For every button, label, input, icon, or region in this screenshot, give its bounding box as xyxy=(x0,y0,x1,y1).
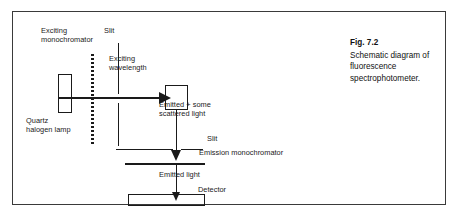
label-emitted-light: Emitted light xyxy=(159,170,200,179)
figure-root: Exciting monochromator Slit Exciting wav… xyxy=(0,0,459,217)
figure-caption-body: Schematic diagram of fluorescence spectr… xyxy=(350,50,452,85)
figure-border: Exciting monochromator Slit Exciting wav… xyxy=(12,11,446,205)
sample-cell xyxy=(165,85,188,110)
label-exciting-monochromator: Exciting monochromator xyxy=(41,26,93,45)
detector xyxy=(128,194,205,206)
label-emission-monochromator: Emission monochromator xyxy=(199,148,283,157)
label-slit-excitation: Slit xyxy=(104,26,114,35)
label-exciting-wavelength: Exciting wavelength xyxy=(109,54,147,73)
label-detector: Detector xyxy=(198,185,226,194)
label-slit-emission: Slit xyxy=(207,134,217,143)
figure-caption-title: Fig. 7.2 xyxy=(350,37,452,49)
emission-monochromator xyxy=(125,163,205,165)
exciting-monochromator xyxy=(91,54,94,146)
figure-caption: Fig. 7.2 Schematic diagram of fluorescen… xyxy=(350,37,452,84)
quartz-halogen-lamp xyxy=(58,74,72,113)
emission-slit-right xyxy=(181,149,203,150)
excitation-slit-lower xyxy=(118,103,119,146)
emission-slit-left xyxy=(116,149,173,150)
label-quartz-halogen-lamp: Quartz halogen lamp xyxy=(26,116,71,135)
emission-beam-upper xyxy=(176,110,177,154)
excitation-beam xyxy=(58,97,166,99)
emission-beam-upper-arrow-icon xyxy=(171,150,181,161)
excitation-slit-upper xyxy=(118,43,119,94)
